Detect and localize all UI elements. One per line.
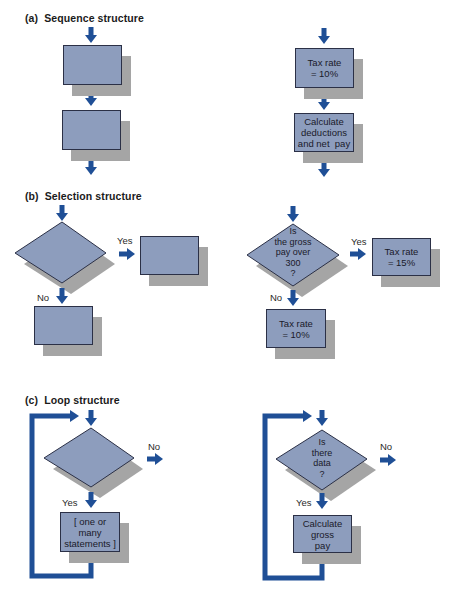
sel-example-no-label: No — [270, 292, 282, 303]
sel-yes-box — [140, 236, 199, 275]
seq-example-arrow-out — [318, 161, 330, 177]
loop-example-arrow-in — [316, 410, 328, 426]
sel-yes-label: Yes — [117, 235, 133, 246]
seq-example-arrow-in — [318, 28, 330, 44]
seq-process-box-1 — [63, 45, 122, 85]
loop-example-condition: Is there data ? — [292, 437, 352, 479]
sel-no-label: No — [37, 292, 49, 303]
sel-arrow-in — [56, 205, 68, 221]
seq-process-box-2 — [62, 110, 121, 150]
loop-body-box: [ one or many statements ] — [60, 512, 120, 552]
sel-example-no-box: Tax rate = 10% — [266, 309, 326, 348]
seq-example-box-calculate: Calculate deductions and net pay — [294, 113, 354, 152]
selection-title: (b) Selection structure — [25, 190, 142, 202]
loop-example-yes-label: Yes — [296, 497, 312, 508]
sel-example-arrow-yes — [350, 248, 366, 260]
loop-example-body-box: Calculate gross pay — [293, 515, 352, 553]
loop-example-no-label: No — [380, 441, 392, 452]
seq-example-box-tax-rate: Tax rate = 10% — [295, 48, 354, 88]
loop-no-label: No — [148, 441, 160, 452]
loop-yes-label: Yes — [62, 497, 78, 508]
sel-example-arrow-in — [287, 206, 299, 222]
sel-example-condition: Is the gross pay over 300 ? — [263, 226, 323, 279]
loop-title: (c) Loop structure — [25, 394, 120, 406]
sel-example-yes-box: Tax rate = 15% — [372, 238, 431, 276]
sel-example-yes-label: Yes — [351, 236, 367, 247]
sequence-title: (a) Sequence structure — [25, 12, 144, 24]
sel-arrow-yes — [119, 248, 135, 260]
loop-arrow-no — [147, 453, 163, 465]
loop-example-arrow-no — [380, 454, 396, 466]
seq-arrow-out — [85, 159, 97, 175]
seq-arrow-in — [85, 27, 97, 43]
loop-arrow-in — [85, 410, 97, 426]
sel-no-box — [34, 306, 93, 345]
